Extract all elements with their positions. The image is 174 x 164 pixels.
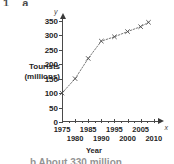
x-axis-letter: x xyxy=(165,124,169,131)
data-point-marker xyxy=(86,56,90,60)
y-tick-label: 50 xyxy=(36,103,58,112)
x-tick-label: 2005 xyxy=(132,125,149,134)
cropped-answer-text: b About 330 million xyxy=(30,157,122,164)
y-tick-label: 100 xyxy=(36,89,58,98)
plot-area: y x 050100150200250300350 19751980198519… xyxy=(62,18,159,122)
x-tick-label: 2000 xyxy=(119,134,136,143)
y-tick-label: 150 xyxy=(36,74,58,83)
data-point-marker xyxy=(125,29,129,33)
data-point-marker xyxy=(138,24,142,28)
x-axis-title: Year xyxy=(86,146,102,155)
x-tick-label: 1980 xyxy=(67,134,84,143)
trend-line xyxy=(62,22,149,93)
data-point-marker xyxy=(146,20,150,24)
y-tick-label: 250 xyxy=(36,45,58,54)
y-tick-label: 300 xyxy=(36,31,58,40)
y-tick-label: 200 xyxy=(36,60,58,69)
cropped-question-label: 1 a xyxy=(3,0,33,6)
data-series-line xyxy=(62,18,159,122)
data-point-marker xyxy=(112,35,116,39)
data-point-marker xyxy=(99,39,103,43)
chart-figure: 1 a Tourists (millions) y x 050100150200… xyxy=(0,0,174,164)
data-point-marker xyxy=(73,76,77,80)
y-tick-label: 350 xyxy=(36,16,58,25)
x-tick-label: 1975 xyxy=(54,125,71,134)
x-tick-label: 1995 xyxy=(106,125,123,134)
x-tick-label: 2010 xyxy=(145,134,162,143)
x-tick-label: 1985 xyxy=(80,125,97,134)
x-tick-label: 1990 xyxy=(93,134,110,143)
y-axis-letter: y xyxy=(54,8,58,15)
